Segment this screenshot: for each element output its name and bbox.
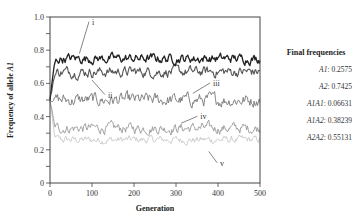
x-tick-label: 200	[128, 189, 140, 198]
annotation-pointer-i	[79, 22, 89, 54]
annotation-label-iv: iv	[200, 112, 206, 121]
final-freq-a1a1: A1A1: 0.06631	[276, 95, 356, 112]
y-tick-label: 0.6	[34, 79, 44, 88]
annotation-pointer-v	[209, 151, 217, 162]
annotation-pointer-iv	[181, 116, 197, 123]
x-axis-title: Generation	[136, 204, 175, 213]
y-tick-label: 0.4	[34, 113, 44, 122]
y-tick-label: 0.2	[34, 146, 44, 155]
annotation-pointer-iii	[193, 83, 210, 93]
y-axis-title: Frequency of allele A1	[6, 62, 15, 138]
annotation-label-ii: ii	[108, 91, 113, 100]
series-lines	[50, 52, 260, 145]
final-freq-a2: A2: 0.7425	[276, 78, 356, 95]
x-tick-label: 100	[86, 189, 98, 198]
axes: 00.20.40.60.81.00100200300400500Generati…	[6, 13, 266, 213]
y-tick-label: 0	[40, 179, 44, 188]
final-freq-a2a2: A2A2: 0.55131	[276, 129, 356, 146]
final-frequencies-panel: Final frequencies A1: 0.2575 A2: 0.7425 …	[276, 48, 356, 146]
series-line-iv	[50, 101, 260, 136]
panel-title: Final frequencies	[276, 48, 356, 57]
annotation-label-i: i	[92, 18, 95, 27]
final-freq-a1: A1: 0.2575	[276, 61, 356, 78]
series-line-iii	[50, 91, 260, 109]
annotation-label-iii: iii	[213, 79, 220, 88]
y-tick-label: 0.8	[34, 46, 44, 55]
series-line-v	[50, 100, 260, 146]
final-freq-a1a2: A1A2: 0.38239	[276, 112, 356, 129]
x-tick-label: 400	[212, 189, 224, 198]
x-tick-label: 500	[254, 189, 266, 198]
plot-frame	[50, 17, 260, 183]
x-tick-label: 0	[48, 189, 52, 198]
series-annotations: iiiiiiivv	[79, 18, 224, 168]
y-tick-label: 1.0	[34, 13, 44, 22]
x-tick-label: 300	[170, 189, 182, 198]
annotation-pointer-ii	[92, 80, 105, 95]
annotation-label-v: v	[220, 159, 224, 168]
